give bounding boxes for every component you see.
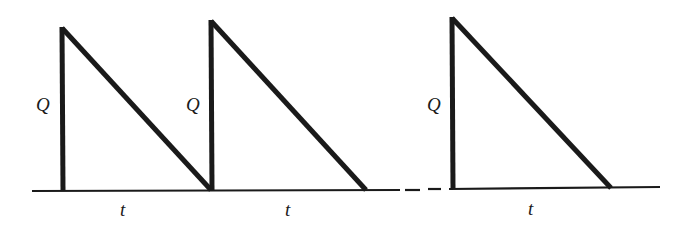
pulse-2-duration-label: t <box>285 200 290 219</box>
pulse-2-decay <box>211 21 366 190</box>
pulse-3-amplitude-label: Q <box>427 95 441 114</box>
sawtooth-diagram <box>0 0 686 232</box>
pulse-1-duration-label: t <box>120 200 125 219</box>
pulse-2-amplitude-label: Q <box>186 95 200 114</box>
pulse-1-rise <box>62 27 63 191</box>
pulse-2-rise <box>211 20 212 190</box>
time-axis-left <box>32 190 400 191</box>
pulse-3-duration-label: t <box>528 199 533 218</box>
time-axis-right <box>449 187 660 189</box>
pulse-1-amplitude-label: Q <box>36 95 50 114</box>
pulse-3-rise <box>452 17 453 189</box>
pulse-3-decay <box>452 18 611 188</box>
